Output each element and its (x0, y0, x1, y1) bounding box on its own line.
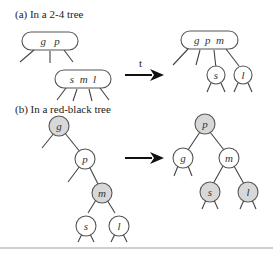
red-black-after: p g m s l (173, 114, 258, 209)
arrow-right-icon (125, 152, 164, 164)
arrow-right-icon (125, 69, 164, 81)
section-b-label: (b) In a red-black tree (15, 103, 111, 116)
svg-text:l: l (241, 69, 244, 81)
parent-keys: g p (40, 35, 60, 47)
arrow-label: t (139, 57, 142, 69)
svg-text:m: m (225, 152, 233, 164)
section-a-label: (a) In a 2-4 tree (15, 8, 84, 21)
svg-text:s: s (214, 69, 218, 81)
svg-text:s: s (208, 186, 212, 198)
red-black-before: g p m s l (42, 116, 129, 242)
parent-keys-after: g p m (194, 34, 224, 46)
svg-text:g: g (180, 152, 186, 164)
svg-text:m: m (98, 187, 106, 199)
svg-text:s: s (84, 220, 88, 232)
two-four-before: g p s m l (20, 32, 111, 101)
two-four-after: g p m s l (173, 31, 252, 92)
svg-text:p: p (81, 153, 88, 165)
svg-text:l: l (117, 220, 120, 232)
bottom-divider (0, 247, 273, 249)
svg-text:g: g (56, 120, 62, 132)
svg-text:l: l (246, 186, 249, 198)
child-keys: s m l (70, 73, 96, 85)
diagram-canvas: (a) In a 2-4 tree g p s m l t g p m s l (0, 0, 273, 253)
svg-text:p: p (201, 118, 208, 130)
